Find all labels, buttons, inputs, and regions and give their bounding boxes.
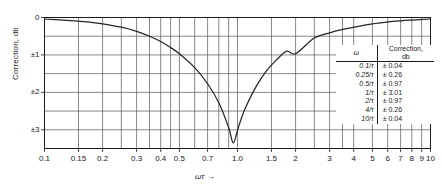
x-tick-label: 0.2 [89, 154, 117, 163]
table-row: 1/τ± 3.01 [336, 89, 434, 98]
x-tick-label: 0.5 [165, 154, 193, 163]
table-cell-omega: 2/τ [336, 97, 377, 106]
table-cell-omega: 1/τ [336, 89, 377, 98]
y-tick-label: ±1 [15, 50, 40, 59]
table-body: 0.1/τ± 0.040.25/τ± 0.260.5/τ± 0.971/τ± 3… [336, 62, 434, 124]
table-cell-correction: ± 0.26 [377, 71, 434, 80]
table-cell-omega: 4/τ [336, 106, 377, 115]
x-tick-label: 2 [282, 154, 310, 163]
table-row: 4/τ± 0.26 [336, 106, 434, 115]
table-row: 10/τ± 0.04 [336, 115, 434, 124]
y-tick-label: ±2 [15, 87, 40, 96]
table-cell-correction: ± 0.04 [377, 115, 434, 124]
table-cell-omega: 10/τ [336, 115, 377, 124]
y-tick-label: 0 [15, 13, 40, 22]
x-tick-label: 1.0 [224, 154, 252, 163]
table-header-row: ω Correction, db [336, 45, 434, 62]
table-header-correction-line1: Correction, [389, 45, 423, 52]
table-cell-correction: ± 0.97 [377, 80, 434, 89]
table-cell-correction: ± 0.26 [377, 106, 434, 115]
y-tick-label: ±3 [15, 125, 40, 134]
table-row: 0.5/τ± 0.97 [336, 80, 434, 89]
table-header-correction: Correction, db [377, 45, 434, 62]
table-cell-correction: ± 0.04 [377, 62, 434, 71]
table-row: 0.1/τ± 0.04 [336, 62, 434, 71]
correction-table: ω Correction, db 0.1/τ± 0.040.25/τ± 0.26… [336, 45, 434, 124]
table-cell-correction: ± 3.01 [377, 89, 434, 98]
x-axis-title: ωτ → [195, 172, 215, 181]
table-cell-omega: 0.5/τ [336, 80, 377, 89]
table-cell-omega: 0.25/τ [336, 71, 377, 80]
x-tick-label: 10 [417, 154, 442, 163]
table-header-omega: ω [336, 45, 377, 62]
x-tick-label: 0.1 [31, 154, 59, 163]
table-cell-omega: 0.1/τ [336, 62, 377, 71]
table-row: 0.25/τ± 0.26 [336, 71, 434, 80]
table-header-correction-line2: db [402, 53, 410, 60]
x-tick-label: 0.7 [194, 154, 222, 163]
table-row: 2/τ± 0.97 [336, 97, 434, 106]
table-cell-correction: ± 0.97 [377, 97, 434, 106]
